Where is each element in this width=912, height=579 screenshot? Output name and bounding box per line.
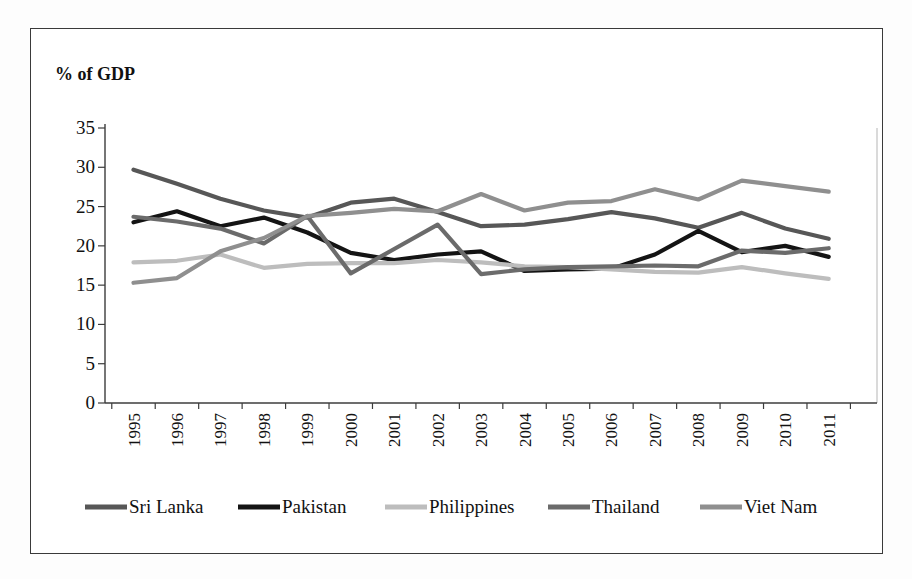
y-axis-tick-label: 0	[86, 392, 96, 413]
x-axis-year-label: 1997	[211, 413, 230, 448]
legend-label-viet-nam: Viet Nam	[744, 496, 817, 517]
y-axis-tick-label: 35	[76, 117, 95, 138]
x-axis-year-label: 2006	[602, 413, 621, 447]
x-axis-year-label: 1996	[168, 413, 187, 447]
x-axis-year-label: 2003	[472, 413, 491, 447]
x-axis-year-label: 2011	[820, 413, 839, 446]
y-axis-tick-label: 25	[76, 196, 95, 217]
series-line-sri-lanka	[134, 170, 829, 239]
y-axis-tick-label: 20	[76, 235, 95, 256]
legend-label-pakistan: Pakistan	[282, 496, 347, 517]
x-axis-year-label: 2007	[646, 413, 665, 448]
chart-figure: % of GDP 0510152025303519951996199719981…	[0, 0, 912, 579]
legend-label-sri-lanka: Sri Lanka	[129, 496, 204, 517]
x-axis-year-label: 2005	[559, 413, 578, 447]
x-axis-year-label: 1999	[298, 413, 317, 447]
y-axis-tick-label: 30	[76, 156, 95, 177]
x-axis-year-label: 2000	[342, 413, 361, 447]
legend-label-thailand: Thailand	[592, 496, 660, 517]
x-axis-year-label: 2009	[733, 413, 752, 447]
y-axis-tick-label: 10	[76, 313, 95, 334]
x-axis-year-label: 2001	[385, 413, 404, 447]
x-axis-year-label: 1995	[125, 413, 144, 447]
legend-label-philippines: Philippines	[429, 496, 515, 517]
x-axis-year-label: 2004	[516, 413, 535, 448]
y-axis-tick-label: 5	[86, 353, 96, 374]
x-axis-year-label: 2010	[776, 413, 795, 447]
y-axis-tick-label: 15	[76, 274, 95, 295]
x-axis-year-label: 1998	[255, 413, 274, 447]
x-axis-year-label: 2002	[429, 413, 448, 447]
line-chart: 0510152025303519951996199719981999200020…	[0, 0, 912, 579]
x-axis-year-label: 2008	[689, 413, 708, 447]
